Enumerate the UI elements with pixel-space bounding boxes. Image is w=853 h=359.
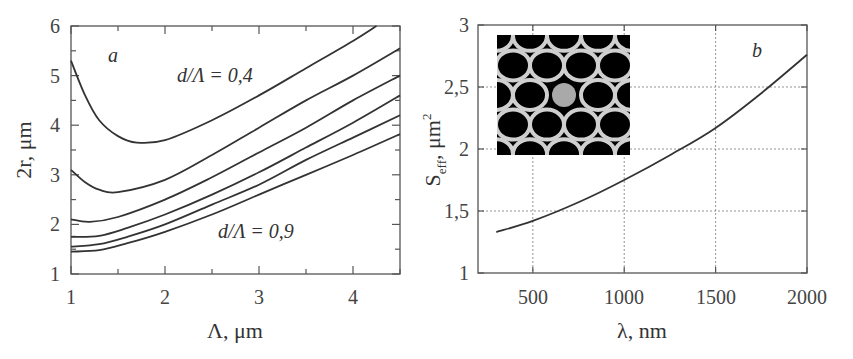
y-tick-label: 1 xyxy=(459,262,469,284)
x-tick-label: 1 xyxy=(66,286,76,308)
x-axis-label-a: Λ, μm xyxy=(207,318,263,343)
x-tick-label: 500 xyxy=(518,286,548,308)
x-tick-label: 4 xyxy=(348,286,358,308)
y-tick-label: 1,5 xyxy=(444,200,469,222)
y-tick-labels-a: 1 2 3 4 5 6 xyxy=(50,15,60,285)
x-tick-label: 2000 xyxy=(787,286,827,308)
y-tick-label: 3 xyxy=(459,14,469,36)
y-tick-label: 6 xyxy=(50,15,60,37)
chart-a: 1 2 3 4 1 2 3 4 5 6 Λ, μm 2r, μm a d/Λ =… xyxy=(11,15,400,343)
x-tick-label: 1500 xyxy=(696,286,736,308)
annotation-d-lambda-0-4: d/Λ = 0,4 xyxy=(177,64,253,86)
figure: 1 2 3 4 1 2 3 4 5 6 Λ, μm 2r, μm a d/Λ =… xyxy=(0,0,853,359)
y-tick-label: 1 xyxy=(50,263,60,285)
y-tick-label: 3 xyxy=(50,164,60,186)
x-tick-label: 2 xyxy=(160,286,170,308)
x-tick-labels-a: 1 2 3 4 xyxy=(66,286,358,308)
annotation-d-lambda-0-9: d/Λ = 0,9 xyxy=(218,220,294,242)
panel-label-a: a xyxy=(108,44,118,66)
y-tick-label: 4 xyxy=(50,114,60,136)
y-tick-label: 2,5 xyxy=(444,76,469,98)
inset-fiber-micrograph xyxy=(445,0,700,199)
x-axis-label-b: λ, nm xyxy=(617,318,667,343)
y-tick-label: 5 xyxy=(50,65,60,87)
curves-a xyxy=(71,26,400,252)
curve-d---0-6 xyxy=(71,76,400,222)
x-tick-label: 1000 xyxy=(604,286,644,308)
y-axis-label-a: 2r, μm xyxy=(11,121,36,178)
x-tick-labels-b: 500 1000 1500 2000 xyxy=(518,286,827,308)
x-tick-label: 3 xyxy=(254,286,264,308)
panel-label-b: b xyxy=(752,39,762,61)
chart-b: 500 1000 1500 2000 1 1,5 2 2,5 3 λ, nm S… xyxy=(419,0,827,343)
y-tick-label: 2 xyxy=(459,138,469,160)
y-axis-label-b: Seff, μm2 xyxy=(419,114,449,187)
y-tick-labels-b: 1 1,5 2 2,5 3 xyxy=(444,14,469,284)
y-tick-label: 2 xyxy=(50,213,60,235)
